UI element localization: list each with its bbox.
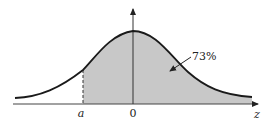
a-tick-label: a (78, 107, 85, 120)
percent-label: 73% (192, 50, 216, 63)
zero-tick-label: 0 (130, 107, 137, 120)
normal-curve-chart: 73% a 0 z (0, 0, 271, 123)
z-axis-label: z (253, 108, 260, 121)
